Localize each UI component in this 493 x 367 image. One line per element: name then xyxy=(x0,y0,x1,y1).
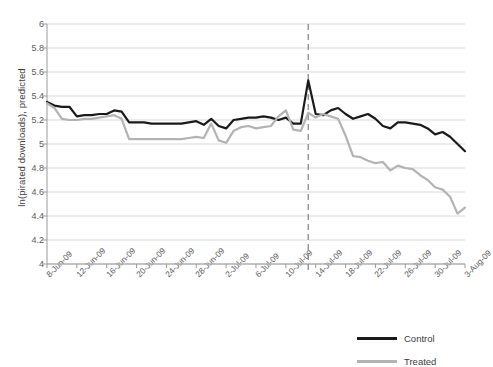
legend-label-treated: Treated xyxy=(404,356,436,367)
x-axis-ticks xyxy=(47,264,465,268)
legend-item-treated: Treated xyxy=(357,356,436,367)
legend-item-control: Control xyxy=(357,333,435,344)
data-series-layer xyxy=(47,80,465,213)
gridlines xyxy=(47,24,465,264)
legend-swatch-control xyxy=(357,337,397,340)
legend-label-control: Control xyxy=(404,333,435,344)
legend-swatch-treated xyxy=(357,360,397,363)
